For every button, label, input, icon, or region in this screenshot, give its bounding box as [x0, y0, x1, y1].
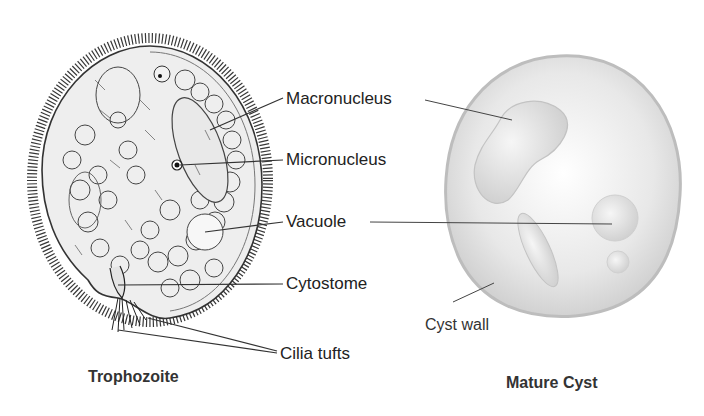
label-cytostome: Cytostome — [286, 275, 367, 292]
label-micronucleus: Micronucleus — [286, 151, 386, 168]
label-cyst-wall: Cyst wall — [425, 317, 489, 333]
trophozoite-drawing — [32, 38, 268, 332]
title-trophozoite: Trophozoite — [88, 369, 179, 385]
label-cilia-tufts: Cilia tufts — [280, 345, 350, 362]
title-mature-cyst: Mature Cyst — [506, 375, 598, 391]
label-vacuole: Vacuole — [286, 213, 346, 230]
cyst-vacuole — [592, 195, 638, 241]
cyst-drawing — [446, 56, 681, 317]
cell-body — [42, 46, 262, 318]
cyst-small-vacuole — [607, 251, 629, 273]
diagram-artwork — [0, 0, 704, 416]
label-macronucleus: Macronucleus — [286, 90, 392, 107]
